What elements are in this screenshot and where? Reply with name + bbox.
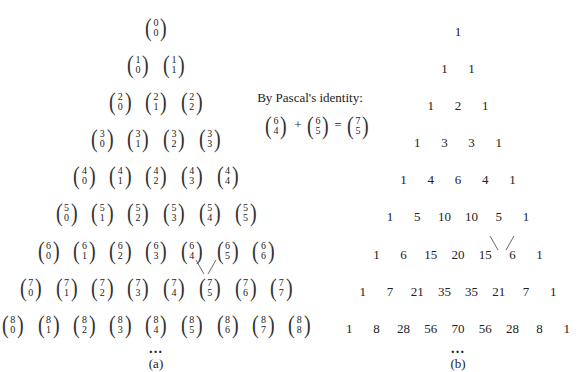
connector-lines bbox=[0, 0, 587, 369]
